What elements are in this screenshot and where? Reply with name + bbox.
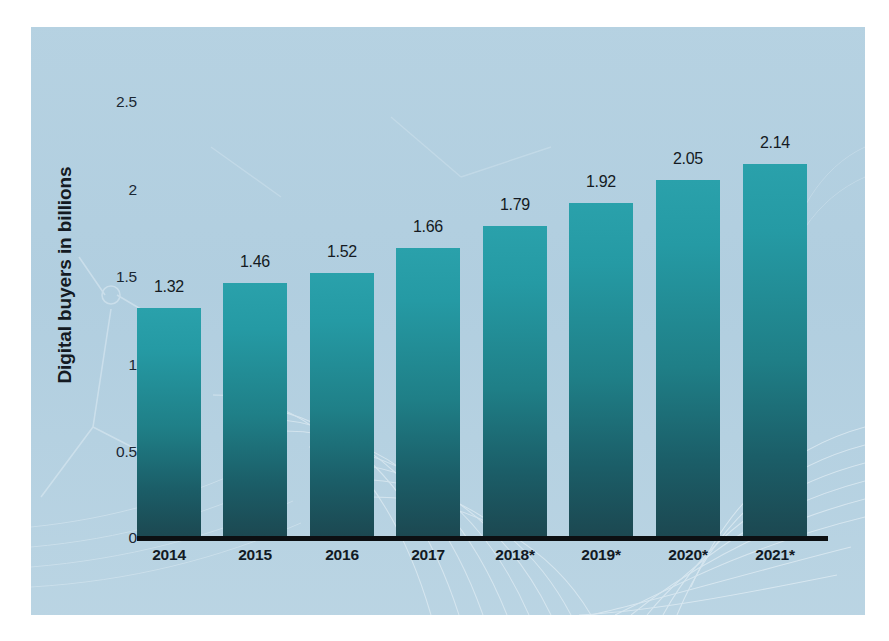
bar-series: 1.32 1.46 1.52 1.66 1.79 1.92 [137,27,828,539]
bar-slot: 1.52 [310,27,374,539]
bar-value-label: 2.14 [721,134,829,152]
bar-slot: 1.92 [569,27,633,539]
bar-value-label: 1.32 [115,278,223,296]
y-tick-label: 2.5 [81,93,137,111]
x-tick-label-2015: 2015 [223,546,287,564]
x-tick-label-2019: 2019* [569,546,633,564]
bar-value-label: 1.66 [374,218,482,236]
bar-2015[interactable] [223,283,287,539]
x-tick-label-2014: 2014 [137,546,201,564]
y-axis-title: Digital buyers in billions [54,125,76,425]
x-axis-tick-labels: 2014 2015 2016 2017 2018* 2019* 2020* 20… [137,546,828,576]
y-tick-label: 0.5 [81,443,137,461]
bar-slot: 1.79 [483,27,547,539]
bar-value-label: 1.92 [547,173,655,191]
bar-slot: 1.32 [137,27,201,539]
x-axis-line [137,536,828,541]
bar-slot: 2.05 [656,27,720,539]
bar-2019[interactable] [569,203,633,539]
x-tick-label-2018: 2018* [483,546,547,564]
plot-area: Digital buyers in billions 2.5 2 1.5 1 0… [31,27,865,615]
bar-value-label: 2.05 [634,150,742,168]
bar-value-label: 1.79 [461,196,569,214]
bar-2018[interactable] [483,226,547,539]
bar-2021[interactable] [743,164,807,539]
bar-2014[interactable] [137,308,201,539]
bar-value-label: 1.52 [288,243,396,261]
bar-slot: 2.14 [743,27,807,539]
y-axis-tick-labels: 2.5 2 1.5 1 0.5 0 [75,27,137,615]
x-tick-label-2017: 2017 [396,546,460,564]
y-tick-label: 1 [81,356,137,374]
x-tick-label-2016: 2016 [310,546,374,564]
x-tick-label-2020: 2020* [656,546,720,564]
bar-2020[interactable] [656,180,720,539]
y-tick-label: 2 [81,181,137,199]
bar-slot: 1.66 [396,27,460,539]
bar-slot: 1.46 [223,27,287,539]
chart-card: Digital buyers in billions 2.5 2 1.5 1 0… [31,27,865,615]
bar-2016[interactable] [310,273,374,539]
x-tick-label-2021: 2021* [743,546,807,564]
y-tick-label: 0 [81,529,137,547]
bar-2017[interactable] [396,248,460,539]
